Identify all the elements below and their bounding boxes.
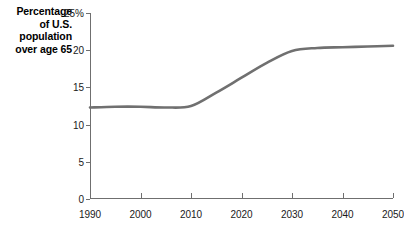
- y-tick-label-5: 5: [78, 156, 84, 167]
- x-tick-label-2000: 2000: [129, 209, 151, 220]
- x-tick-2050: [393, 193, 394, 198]
- y-tick-label-20: 20: [73, 45, 84, 56]
- plot-area: 0510152025% 1990200020102020203020402050: [90, 13, 393, 199]
- x-tick-label-2040: 2040: [331, 209, 353, 220]
- y-tick-label-15: 15: [73, 82, 84, 93]
- chart-axis-caption: Percentage of U.S. population over age 6…: [0, 5, 72, 55]
- y-tick-label-10: 10: [73, 119, 84, 130]
- caption-line-4: over age 65: [0, 43, 72, 56]
- line-series: [90, 13, 393, 199]
- x-tick-label-2020: 2020: [230, 209, 252, 220]
- series-path-population-over-65: [90, 46, 393, 108]
- caption-line-3: population: [0, 30, 72, 43]
- x-tick-label-2010: 2010: [180, 209, 202, 220]
- y-tick-label-0: 0: [78, 194, 84, 205]
- x-tick-label-2030: 2030: [281, 209, 303, 220]
- x-tick-label-2050: 2050: [382, 209, 404, 220]
- x-tick-label-1990: 1990: [79, 209, 101, 220]
- chart-container: Percentage of U.S. population over age 6…: [0, 0, 404, 229]
- caption-line-2: of U.S.: [0, 18, 72, 31]
- y-tick-0: [86, 199, 90, 200]
- caption-line-1: Percentage: [0, 5, 72, 18]
- y-tick-label-25: 25%: [64, 8, 84, 19]
